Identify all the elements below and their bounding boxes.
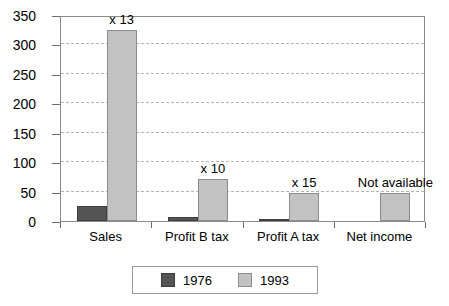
bar-annotation: x 15 xyxy=(292,176,317,189)
bar-annotation: x 10 xyxy=(201,162,226,175)
bar-annotation: Not available xyxy=(358,176,433,189)
y-tick-label: 50 xyxy=(20,186,36,200)
x-tick-label-net-income: Net income xyxy=(347,230,413,244)
x-tick-mark xyxy=(334,222,335,228)
bar-1976-profit-a-tax xyxy=(259,219,289,221)
legend-label: 1976 xyxy=(183,274,212,287)
bar-1976-profit-b-tax xyxy=(168,217,198,221)
x-tick-label-profit-b-tax: Profit B tax xyxy=(165,230,229,244)
y-tick-label: 0 xyxy=(28,215,36,229)
x-tick-mark xyxy=(425,222,426,228)
y-tick-label: 150 xyxy=(13,127,36,141)
bar-annotation: x 13 xyxy=(109,13,134,26)
legend-entry-1976: 1976 xyxy=(161,273,212,287)
y-tick-label: 350 xyxy=(13,9,36,23)
y-tick-label: 200 xyxy=(13,97,36,111)
x-tick-label-sales: Sales xyxy=(89,230,122,244)
y-tick-label: 300 xyxy=(13,38,36,52)
x-tick-mark xyxy=(60,222,61,228)
y-tick-label: 250 xyxy=(13,68,36,82)
x-axis: SalesProfit B taxProfit A taxNet income xyxy=(60,222,425,252)
legend-label: 1993 xyxy=(260,274,289,287)
legend-entry-1993: 1993 xyxy=(238,273,289,287)
x-tick-mark xyxy=(151,222,152,228)
y-axis: 050100150200250300350 xyxy=(0,0,62,306)
bar-1993-net-income xyxy=(380,193,410,221)
bar-1993-profit-b-tax xyxy=(198,179,228,221)
bar-1976-sales xyxy=(77,206,107,221)
bar-1993-sales xyxy=(107,30,137,221)
light-swatch xyxy=(238,273,252,287)
dark-swatch xyxy=(161,273,175,287)
chart-legend: 19761993 xyxy=(132,266,318,294)
bar-chart-figure: 050100150200250300350 x 13x 10x 15Not av… xyxy=(0,0,449,306)
bar-1993-profit-a-tax xyxy=(289,193,319,221)
y-tick-label: 100 xyxy=(13,156,36,170)
x-tick-mark xyxy=(243,222,244,228)
plot-area: x 13x 10x 15Not available xyxy=(60,16,425,222)
x-tick-label-profit-a-tax: Profit A tax xyxy=(257,230,319,244)
